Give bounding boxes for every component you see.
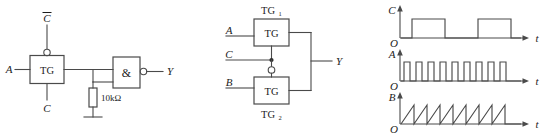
left-control-top-label: C bbox=[43, 12, 51, 24]
middle-tg2-label: TG bbox=[265, 86, 279, 97]
middle-tg1-subscript: 1 bbox=[278, 10, 281, 17]
waveform-b-x-axis-label: t bbox=[535, 118, 539, 130]
middle-control-label: C bbox=[225, 48, 233, 60]
middle-tg2-caption: TG bbox=[261, 109, 275, 120]
waveform-c-x-axis-label: t bbox=[535, 32, 539, 44]
waveform-a-trace bbox=[401, 62, 521, 81]
waveform-c: C t O bbox=[388, 4, 539, 49]
waveform-b-trace bbox=[401, 105, 521, 124]
circuit-left-group: C TG C A & Y bbox=[5, 12, 175, 117]
middle-tg1-caption: TG bbox=[261, 5, 275, 16]
waveform-b-label: B bbox=[389, 91, 396, 103]
waveform-b-origin-label: O bbox=[390, 123, 398, 135]
middle-tg2-subscript: 2 bbox=[278, 114, 281, 121]
waveform-a-x-axis-label: t bbox=[535, 75, 539, 87]
middle-tg1-label: TG bbox=[265, 28, 279, 39]
waveform-a-label: A bbox=[388, 48, 396, 60]
timing-diagram-group: C t O A t O bbox=[388, 4, 540, 135]
left-resistor-label: 10kΩ bbox=[101, 93, 122, 103]
middle-input-b-label: B bbox=[226, 76, 233, 88]
middle-output-label: Y bbox=[336, 55, 344, 67]
left-and-gate-label: & bbox=[122, 66, 132, 80]
circuit-middle-group: TG 1 TG A C TG TG 2 B bbox=[225, 5, 344, 121]
middle-input-a-label: A bbox=[225, 24, 233, 36]
left-output-bubble bbox=[140, 68, 146, 74]
waveform-a-x-arrow bbox=[523, 78, 530, 84]
diagram-canvas: C TG C A & Y bbox=[0, 0, 548, 135]
waveform-c-trace bbox=[401, 19, 521, 38]
waveform-b: B t O bbox=[389, 91, 540, 135]
waveform-c-x-arrow bbox=[523, 35, 530, 41]
waveform-b-x-arrow bbox=[523, 121, 530, 127]
left-tg-control-bubble bbox=[44, 49, 50, 55]
left-control-bottom-label: C bbox=[43, 102, 51, 114]
waveform-c-y-arrow bbox=[397, 5, 403, 12]
figure-root: C TG C A & Y bbox=[0, 0, 548, 135]
waveform-b-y-arrow bbox=[397, 92, 403, 99]
waveform-a-y-arrow bbox=[397, 49, 403, 56]
middle-tg2-control-bubble bbox=[268, 67, 275, 74]
left-resistor-body bbox=[89, 88, 97, 107]
waveform-a: A t O bbox=[388, 48, 540, 92]
left-output-label: Y bbox=[167, 65, 175, 77]
waveform-c-label: C bbox=[388, 4, 396, 16]
left-input-label: A bbox=[5, 63, 13, 75]
left-tg-label: TG bbox=[40, 65, 54, 76]
